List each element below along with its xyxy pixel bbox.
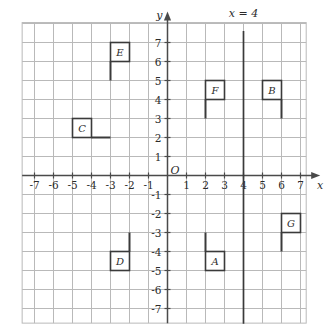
y-tick-label: 2 bbox=[155, 132, 162, 144]
y-tick-label: 5 bbox=[155, 75, 162, 87]
flag-f: F bbox=[206, 81, 225, 119]
flag-label-c: C bbox=[78, 123, 86, 134]
x-tick-label: 2 bbox=[202, 179, 209, 191]
tick-labels-layer: -7-6-5-4-3-2-112345677654321-1-2-3-4-5-6… bbox=[29, 9, 324, 315]
flag-a: A bbox=[206, 233, 225, 271]
y-tick-label: 3 bbox=[155, 113, 162, 125]
flag-label-f: F bbox=[211, 85, 220, 96]
coordinate-plane-figure: -7-6-5-4-3-2-112345677654321-1-2-3-4-5-6… bbox=[0, 0, 324, 333]
flag-label-d: D bbox=[115, 256, 124, 267]
x-tick-label: 1 bbox=[183, 179, 190, 191]
coordinate-plane-svg: -7-6-5-4-3-2-112345677654321-1-2-3-4-5-6… bbox=[0, 0, 324, 333]
x-tick-label: 7 bbox=[297, 179, 304, 191]
y-tick-label: -2 bbox=[151, 208, 161, 220]
y-tick-label: -4 bbox=[151, 246, 162, 258]
flag-e: E bbox=[111, 43, 130, 81]
y-tick-label: -6 bbox=[151, 284, 162, 296]
x-tick-label: -7 bbox=[29, 179, 39, 191]
flag-d: D bbox=[111, 233, 130, 271]
y-tick-label: 6 bbox=[155, 56, 162, 68]
flag-label-e: E bbox=[115, 47, 124, 58]
y-tick-label: 4 bbox=[155, 94, 162, 106]
y-tick-label: -7 bbox=[151, 303, 161, 315]
flag-g: G bbox=[282, 214, 301, 252]
x-tick-label: 3 bbox=[221, 179, 228, 191]
vertical-line-label: x = 4 bbox=[229, 7, 258, 20]
x-tick-label: -3 bbox=[105, 179, 115, 191]
y-axis-arrow-icon bbox=[164, 12, 171, 21]
x-tick-label: -4 bbox=[86, 179, 97, 191]
y-axis-label: y bbox=[155, 9, 163, 22]
y-tick-label: -1 bbox=[151, 189, 161, 201]
x-axis-label: x bbox=[317, 179, 324, 192]
flag-label-b: B bbox=[267, 85, 275, 96]
flag-b: B bbox=[263, 81, 282, 119]
grid-layer bbox=[22, 23, 306, 324]
x-tick-label: 6 bbox=[278, 179, 285, 191]
x-tick-label: 5 bbox=[259, 179, 266, 191]
x-tick-label: -2 bbox=[124, 179, 134, 191]
y-tick-label: 1 bbox=[155, 151, 162, 163]
flag-label-a: A bbox=[210, 256, 218, 267]
origin-label: O bbox=[171, 164, 180, 177]
annotations-layer: x = 4 bbox=[229, 7, 258, 324]
flag-label-g: G bbox=[287, 218, 295, 229]
x-tick-label: -5 bbox=[67, 179, 77, 191]
grid-border bbox=[22, 23, 306, 324]
x-tick-label: -6 bbox=[48, 179, 59, 191]
y-tick-label: 7 bbox=[155, 37, 162, 49]
y-tick-label: -3 bbox=[151, 227, 161, 239]
flag-c: C bbox=[73, 119, 111, 138]
y-tick-label: -5 bbox=[151, 265, 161, 277]
